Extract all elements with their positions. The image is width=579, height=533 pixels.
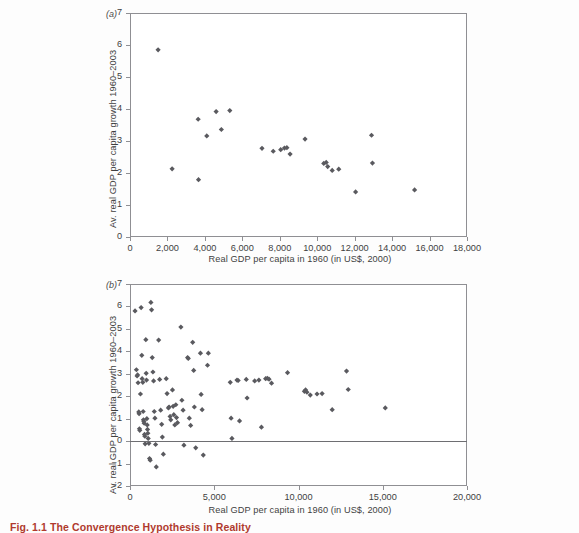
data-point [244, 377, 249, 382]
data-point [259, 425, 264, 430]
y-axis-tick-label: 4 [96, 103, 122, 113]
x-axis-tick [430, 237, 431, 241]
data-point [139, 305, 144, 310]
data-point [170, 387, 175, 392]
data-point [148, 300, 153, 305]
data-point [193, 445, 198, 450]
data-point [181, 443, 186, 448]
data-point [353, 189, 358, 194]
data-point [228, 380, 233, 385]
y-axis-tick-label: 7 [96, 7, 122, 17]
data-point [256, 377, 261, 382]
data-point [198, 351, 203, 356]
y-axis-tick [126, 13, 130, 14]
y-axis-tick [126, 351, 130, 352]
data-point [330, 168, 335, 173]
data-point [269, 381, 274, 386]
data-point [204, 133, 209, 138]
data-point [196, 117, 201, 122]
x-axis-tick [467, 486, 468, 490]
data-point [192, 404, 197, 409]
data-point [201, 452, 206, 457]
y-axis-tick [126, 141, 130, 142]
data-point [200, 407, 205, 412]
x-axis-tick [130, 486, 131, 490]
data-point [179, 398, 184, 403]
data-point [199, 392, 204, 397]
y-axis-tick [126, 205, 130, 206]
data-point [196, 177, 201, 182]
data-point [319, 391, 324, 396]
y-axis-tick [126, 173, 130, 174]
data-point [170, 166, 175, 171]
data-point [152, 416, 157, 421]
data-point [252, 378, 257, 383]
data-point [227, 108, 232, 113]
y-axis-tick-label: 3 [96, 368, 122, 378]
y-axis-tick [126, 45, 130, 46]
y-axis-tick-label: 4 [96, 345, 122, 355]
x-axis-tick-label: 20,000 [437, 492, 497, 502]
data-point [160, 434, 165, 439]
data-point [346, 387, 351, 392]
data-point [285, 370, 290, 375]
x-axis-tick-label: 5,000 [184, 492, 244, 502]
data-point [151, 378, 156, 383]
y-axis-tick-label: 5 [96, 71, 122, 81]
y-axis-tick [126, 109, 130, 110]
data-point [314, 391, 319, 396]
data-point [161, 452, 166, 457]
x-axis-tick [317, 237, 318, 241]
panel-a-points-layer [0, 0, 579, 268]
panel-b: (b) Av. real GDP per capita growth 1960–… [0, 268, 579, 518]
y-axis-tick-label: 1 [96, 413, 122, 423]
data-point [219, 127, 224, 132]
data-point [229, 416, 234, 421]
x-axis-tick-label: 18,000 [437, 243, 497, 253]
data-point [287, 152, 292, 157]
data-point [205, 363, 210, 368]
data-point [149, 307, 154, 312]
data-point [157, 377, 162, 382]
data-point [158, 408, 163, 413]
y-axis-tick-label: −2 [96, 480, 122, 490]
y-axis-tick-label: 3 [96, 135, 122, 145]
y-axis-tick [126, 464, 130, 465]
x-axis-tick-label: 0 [100, 492, 160, 502]
data-point [369, 133, 374, 138]
data-point [132, 308, 137, 313]
x-axis-tick [280, 237, 281, 241]
y-axis-tick-label: 1 [96, 199, 122, 209]
y-axis-tick-label: 7 [96, 278, 122, 288]
figure-caption: Fig. 1.1 The Convergence Hypothesis in R… [10, 521, 251, 533]
y-axis-tick-label: 2 [96, 390, 122, 400]
data-point [154, 464, 159, 469]
y-axis-tick [126, 396, 130, 397]
y-axis-tick [126, 329, 130, 330]
y-axis-tick-label: 6 [96, 39, 122, 49]
x-axis-tick [467, 237, 468, 241]
data-point [259, 146, 264, 151]
x-axis-tick [299, 486, 300, 490]
y-axis-tick [126, 284, 130, 285]
data-point [134, 367, 139, 372]
data-point [180, 408, 185, 413]
x-axis-tick [242, 237, 243, 241]
data-point [245, 395, 250, 400]
data-point [187, 416, 192, 421]
y-axis-tick-label: 5 [96, 323, 122, 333]
data-point [150, 369, 155, 374]
panel-b-points-layer [0, 268, 579, 518]
x-axis-tick [130, 237, 131, 241]
data-point [159, 422, 164, 427]
x-axis-tick [355, 237, 356, 241]
data-point [214, 109, 219, 114]
y-axis-tick-label: 2 [96, 167, 122, 177]
data-point [188, 423, 193, 428]
data-point [144, 371, 149, 376]
data-point [139, 353, 144, 358]
data-point [143, 337, 148, 342]
data-point [135, 380, 140, 385]
data-point [150, 355, 155, 360]
x-axis-tick [167, 237, 168, 241]
